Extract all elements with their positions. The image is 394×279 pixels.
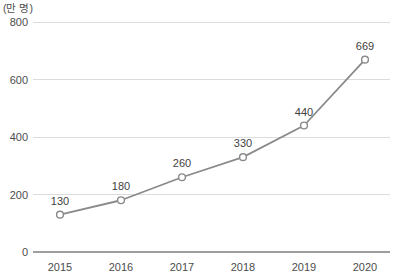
data-point-label: 440 (295, 107, 313, 118)
x-axis-tick-label: 2015 (34, 262, 86, 273)
data-point-marker[interactable] (57, 211, 64, 218)
y-axis-tick-label: 600 (0, 74, 28, 85)
y-axis-tick-label: 0 (0, 247, 28, 258)
data-point-marker[interactable] (301, 122, 308, 129)
x-axis-tick-label: 2017 (156, 262, 208, 273)
data-point-label: 330 (234, 138, 252, 149)
line-chart: (만 명) 0200400600800130180260330440669201… (0, 0, 394, 279)
data-point-label: 669 (356, 41, 374, 52)
x-axis-tick-label: 2016 (95, 262, 147, 273)
x-axis-tick-label: 2019 (278, 262, 330, 273)
y-axis-tick-label: 400 (0, 132, 28, 143)
y-axis-tick-label: 800 (0, 17, 28, 28)
data-point-label: 180 (112, 181, 130, 192)
data-point-marker[interactable] (118, 197, 125, 204)
data-point-marker[interactable] (179, 174, 186, 181)
data-point-label: 260 (173, 158, 191, 169)
data-point-label: 130 (51, 196, 69, 207)
x-axis-tick-label: 2020 (339, 262, 391, 273)
y-axis-tick-label: 200 (0, 189, 28, 200)
data-point-marker[interactable] (240, 154, 247, 161)
x-axis-tick-label: 2018 (217, 262, 269, 273)
chart-plot-area (0, 0, 394, 279)
data-point-marker[interactable] (362, 56, 369, 63)
